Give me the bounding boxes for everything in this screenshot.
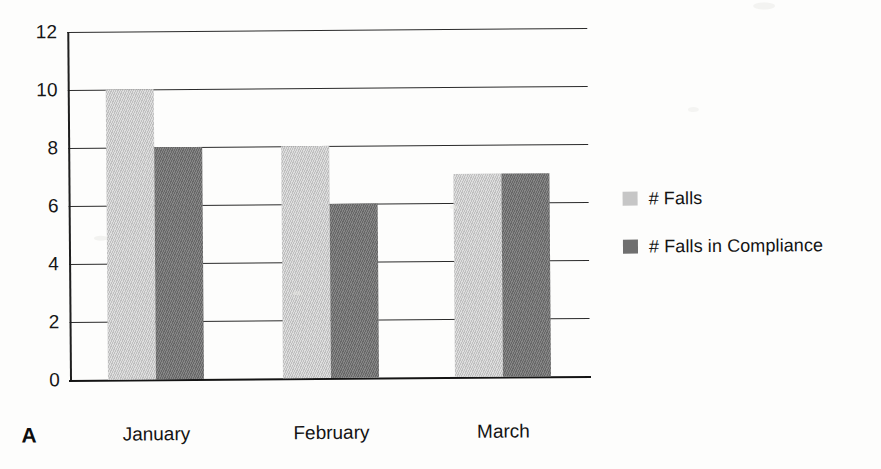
scan-speckle <box>753 2 775 9</box>
x-label-march: March <box>437 420 569 443</box>
bar-january-falls-in-compliance <box>154 147 204 379</box>
legend-swatch-icon-falls <box>623 192 638 206</box>
y-tick-4: 4 <box>13 253 59 275</box>
legend-label-falls-in-compliance: # Falls in Compliance <box>649 235 823 257</box>
figure-panel: 12 10 8 6 4 2 0 <box>0 0 881 469</box>
y-tick-8: 8 <box>12 137 58 159</box>
legend-item-falls-in-compliance: # Falls in Compliance <box>623 234 871 258</box>
legend-label-falls: # Falls <box>649 188 703 209</box>
chart-legend: # Falls # Falls in Compliance <box>623 186 872 284</box>
bar-february-falls-in-compliance <box>330 204 379 378</box>
bar-january-falls <box>106 89 156 379</box>
y-tick-6: 6 <box>13 195 59 217</box>
bar-february-falls <box>281 146 331 378</box>
bar-march-falls <box>453 174 503 377</box>
bar-march-falls-in-compliance <box>501 173 551 376</box>
y-tick-12: 12 <box>11 21 57 43</box>
x-label-february: February <box>261 421 401 444</box>
x-label-january: January <box>86 423 226 446</box>
gridline-12 <box>67 28 587 33</box>
y-tick-2: 2 <box>13 311 59 333</box>
y-tick-0: 0 <box>14 369 60 391</box>
plot-area: January February March <box>67 28 590 380</box>
scan-speckle <box>688 107 699 112</box>
legend-swatch-icon-falls-in-compliance <box>623 240 638 254</box>
panel-letter-a: A <box>21 423 36 447</box>
legend-item-falls: # Falls <box>623 186 871 210</box>
y-axis-tick-labels: 12 10 8 6 4 2 0 <box>5 32 60 380</box>
scanned-figure: 12 10 8 6 4 2 0 <box>0 0 881 469</box>
y-tick-10: 10 <box>12 79 58 101</box>
